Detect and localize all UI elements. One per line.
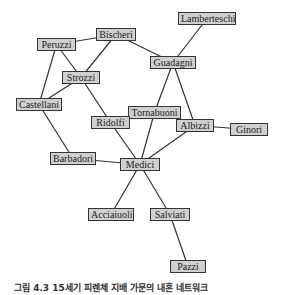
edge-medici-salviati (140, 165, 170, 215)
node-ginori: Ginori (230, 123, 268, 136)
node-guadagni: Guadagni (150, 56, 196, 69)
node-bischeri: Bischeri (96, 28, 136, 41)
node-castellani: Castellani (16, 98, 62, 111)
edge-tornabuoni-medici (140, 113, 155, 165)
edge-medici-acciaiuoli (111, 165, 140, 215)
node-pazzi: Pazzi (170, 260, 206, 273)
edge-salviati-pazzi (170, 215, 188, 267)
node-ridolfi: Ridolfi (91, 116, 130, 129)
node-albizzi: Albizzi (176, 119, 214, 132)
node-strozzi: Strozzi (62, 71, 100, 84)
node-salviati: Salviati (150, 208, 190, 221)
edge-castellani-barbadori (39, 105, 73, 159)
node-medici: Medici (120, 158, 160, 171)
node-acciaiuoli: Acciaiuoli (88, 208, 134, 221)
node-peruzzi: Peruzzi (37, 38, 76, 51)
node-barbadori: Barbadori (50, 152, 96, 165)
node-tornabuoni: Tornabuoni (128, 106, 181, 119)
figure-caption: 그림 4.3 15세기 피렌체 지배 가문의 내혼 네트워크 (14, 281, 208, 294)
edge-guadagni-tornabuoni (155, 63, 174, 113)
node-lamberteschi: Lamberteschi (178, 12, 236, 25)
